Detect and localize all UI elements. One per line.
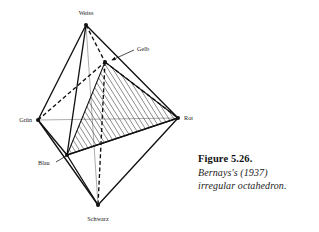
vertex-label-weiss: Weiss — [79, 9, 94, 16]
vertex-label-blau: Blau — [38, 159, 50, 166]
vertex-dot-rot — [176, 116, 180, 120]
caption-title: Figure 5.26. — [198, 152, 313, 166]
vertex-dot-weiss — [84, 23, 88, 27]
caption-line-1: Bernays's (1937) — [198, 166, 313, 179]
octahedron-diagram: WeissGelbGrünRotBlauSchwarz — [0, 0, 319, 232]
hidden-edge-weiss-gelb — [86, 25, 105, 62]
vertex-label-schwarz: Schwarz — [87, 215, 109, 222]
vertex-label-rot: Rot — [184, 114, 193, 121]
figure-page: WeissGelbGrünRotBlauSchwarz Figure 5.26.… — [0, 0, 319, 232]
vertex-dot-blau — [65, 153, 69, 157]
vertex-label-gelb: Gelb — [137, 45, 149, 52]
vertex-dot-schwarz — [96, 203, 100, 207]
vertex-dot-gelb — [103, 60, 107, 64]
edge-blau-schwarz — [67, 155, 98, 205]
vertex-dot-gruen — [36, 118, 40, 122]
figure-caption: Figure 5.26. Bernays's (1937) irregular … — [198, 152, 313, 192]
vertex-label-gruen: Grün — [19, 116, 32, 123]
blau-leader — [56, 156, 66, 162]
caption-line-2: irregular octahedron. — [198, 179, 313, 192]
